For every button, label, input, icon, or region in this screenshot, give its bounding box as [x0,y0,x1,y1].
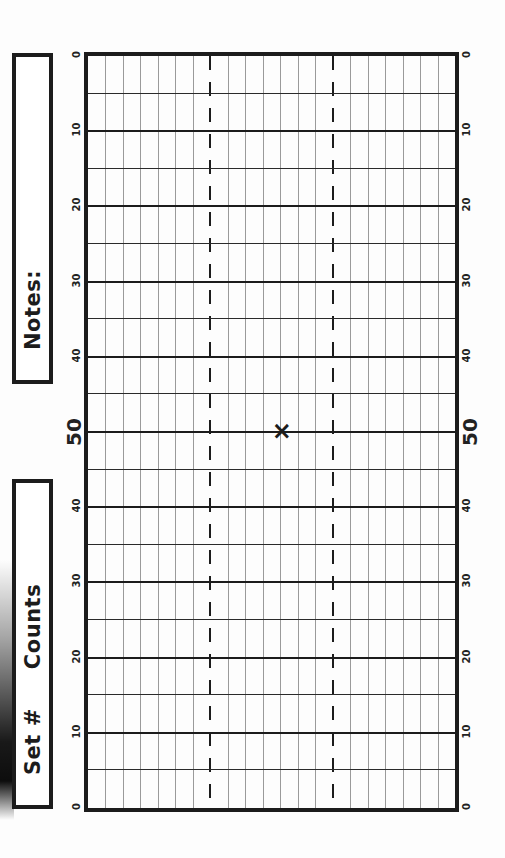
yard-line-5 [88,318,455,319]
yard-line-10 [88,732,455,734]
yard-number-right: 30 [461,569,472,593]
football-field-grid[interactable]: × [84,52,459,812]
yard-line-5 [88,619,455,620]
notes-box[interactable]: Notes: [12,53,53,384]
yard-number-left: 40 [71,343,82,367]
yard-number-right: 10 [461,719,472,743]
yard-line-5 [88,168,455,169]
yard-line-10 [88,657,455,659]
yard-number-right: 0 [461,43,472,67]
set-counts-box[interactable]: Set # Counts [12,479,53,809]
yard-line-5 [88,393,455,394]
yard-number-left: 50 [62,412,86,452]
yard-number-left: 0 [71,795,82,819]
yard-line-10 [88,356,455,358]
yard-line-5 [88,93,455,94]
set-number-label: Set # [21,708,45,775]
yard-line-5 [88,469,455,470]
yard-number-right: 40 [461,494,472,518]
yard-number-left: 0 [71,43,82,67]
yard-line-10 [88,281,455,283]
yard-number-left: 10 [71,118,82,142]
yard-number-left: 30 [71,569,82,593]
yard-line-5 [88,243,455,244]
yard-line-5 [88,544,455,545]
yard-number-left: 20 [71,193,82,217]
yard-number-right: 0 [461,795,472,819]
yard-number-right: 20 [461,193,472,217]
yard-line-5 [88,769,455,770]
yard-number-right: 30 [461,268,472,292]
yard-line-5 [88,694,455,695]
yard-number-right: 20 [461,644,472,668]
notes-label: Notes: [21,270,45,350]
yard-line-10 [88,130,455,132]
yard-line-10 [88,205,455,207]
yard-number-right: 50 [458,412,482,452]
yard-number-left: 10 [71,719,82,743]
yard-number-left: 20 [71,644,82,668]
yard-number-right: 10 [461,118,472,142]
yard-line-10 [88,581,455,583]
set-counts-label: Set # Counts [21,584,45,775]
counts-label: Counts [21,584,45,669]
yard-number-left: 40 [71,494,82,518]
center-x-mark: × [272,419,292,443]
yard-number-left: 30 [71,268,82,292]
yard-line-10 [88,506,455,508]
yard-number-right: 40 [461,343,472,367]
